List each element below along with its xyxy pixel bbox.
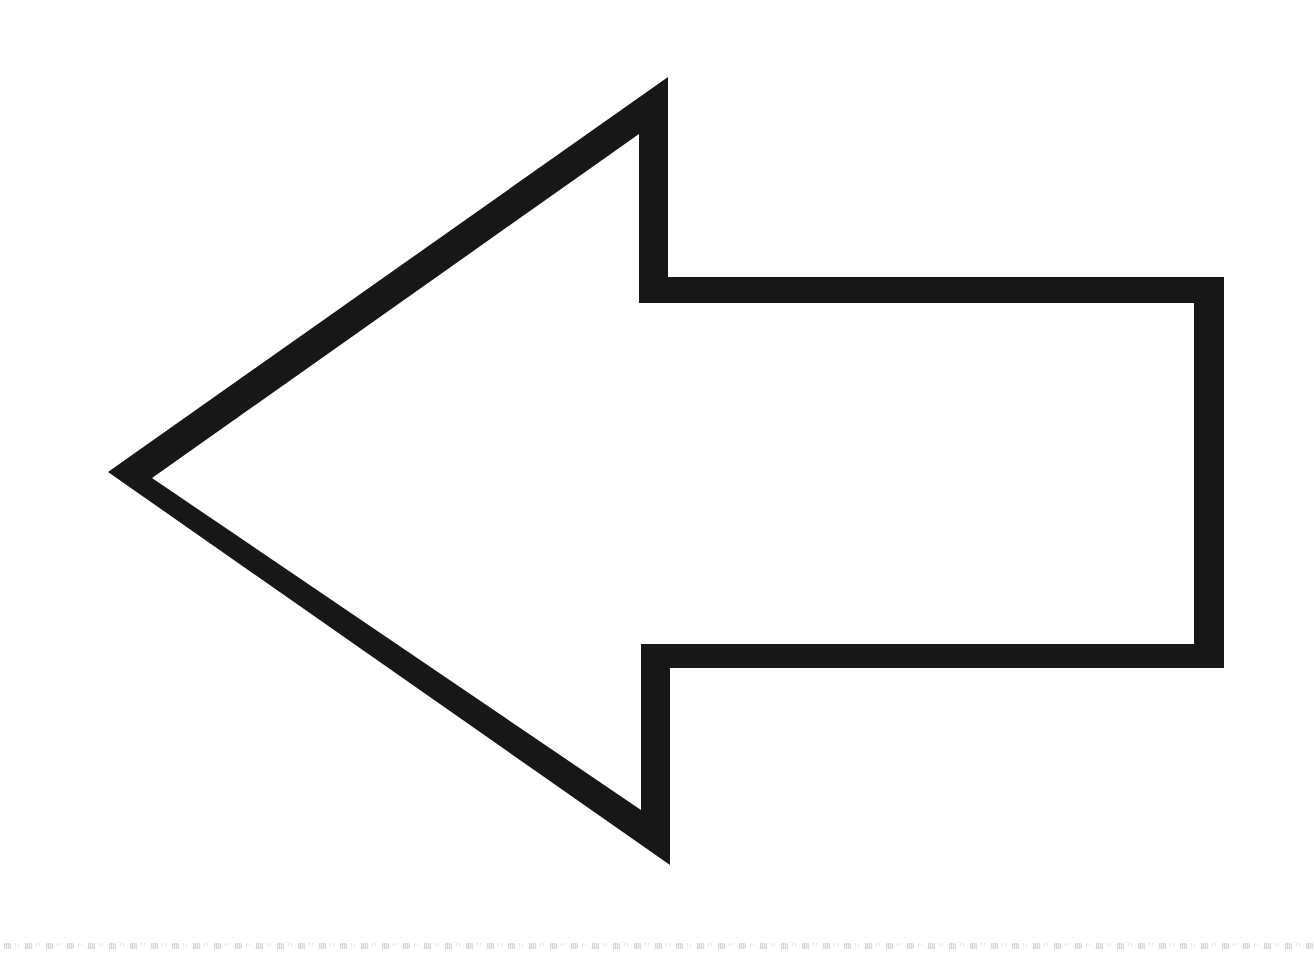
scanner-edge-artifact-secondary [10,943,1310,946]
arrow-left-outline-graphic [0,0,1314,964]
image-canvas [0,0,1314,964]
